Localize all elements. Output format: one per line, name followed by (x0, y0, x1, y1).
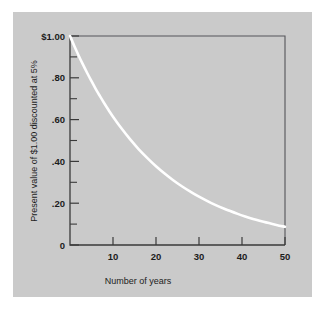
present-value-discount-chart: $1.00 .80 .60 .40 .20 0 10 20 30 40 50 N… (13, 12, 312, 297)
x-axis-major-ticks (113, 237, 285, 245)
plot-frame (70, 36, 285, 245)
chart-panel: $1.00 .80 .60 .40 .20 0 10 20 30 40 50 N… (13, 12, 312, 297)
y-tick-label: .80 (52, 72, 65, 83)
y-tick-label: .20 (52, 198, 65, 209)
y-tick-label: 0 (60, 240, 65, 251)
y-axis-title: Present value of $1.00 discounted at 5% (29, 60, 39, 222)
y-axis-tick-labels: $1.00 .80 .60 .40 .20 0 (41, 31, 65, 251)
x-tick-label: 10 (108, 251, 119, 262)
x-tick-label: 30 (194, 251, 205, 262)
x-axis-tick-labels: 10 20 30 40 50 (108, 251, 291, 262)
x-tick-label: 50 (280, 251, 291, 262)
discount-curve (70, 36, 285, 227)
x-tick-label: 40 (237, 251, 248, 262)
y-tick-label: .40 (52, 156, 65, 167)
y-axis-minor-ticks (70, 57, 77, 224)
x-axis-title: Number of years (105, 276, 172, 286)
x-tick-label: 20 (151, 251, 162, 262)
y-tick-label: $1.00 (41, 31, 65, 42)
y-tick-label: .60 (52, 114, 65, 125)
plot-axes (70, 36, 285, 245)
figure-root: $1.00 .80 .60 .40 .20 0 10 20 30 40 50 N… (0, 0, 325, 312)
